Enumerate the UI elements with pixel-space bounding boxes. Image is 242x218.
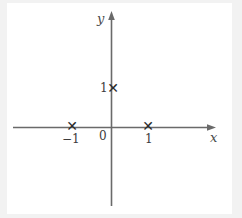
x-axis-label: x [210, 131, 217, 144]
origin-label: 0 [99, 130, 107, 142]
x-tick-label-one: 1 [145, 133, 153, 145]
point-marker-one-zero[interactable]: ✕ [142, 119, 154, 133]
point-marker-minus-one-zero[interactable]: ✕ [66, 119, 78, 133]
y-tick-label-one: 1 [100, 82, 108, 94]
y-axis-arrowhead [108, 11, 115, 20]
x-tick-label-minus-one: −1 [62, 133, 80, 145]
y-axis-label: y [97, 12, 104, 25]
coordinate-plane-svg [0, 0, 242, 218]
point-marker-zero-one[interactable]: ✕ [107, 81, 119, 95]
figure-screenshot: ✕ ✕ ✕ y x 1 −1 1 0 [0, 0, 242, 218]
